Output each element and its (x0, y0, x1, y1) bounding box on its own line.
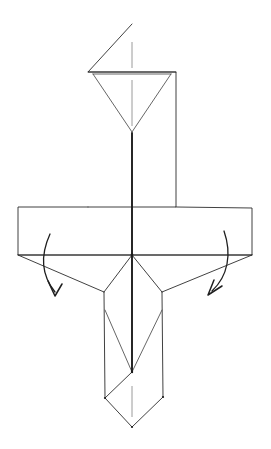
inner-inverted-triangle-left-edge (93, 74, 132, 132)
inner-lower-v-right-edge (132, 310, 162, 372)
center-to-left-flap-crease (104, 255, 132, 292)
left-fold-arrow-head-icon (48, 281, 62, 296)
right-fold-arrow (212, 231, 228, 291)
inner-inverted-triangle-right-edge (132, 74, 171, 132)
center-to-right-flap-crease (132, 255, 162, 292)
right-lower-flap-edge (162, 255, 252, 292)
inner-lower-v-left-edge (105, 310, 132, 372)
lower-body-right-side (162, 292, 163, 397)
center-vertex (131, 254, 134, 257)
inner-v-apex-lower (131, 371, 133, 373)
fold-diagram-canvas (0, 0, 271, 449)
left-wing-panel (18, 207, 132, 255)
diamond-left-vertex (104, 397, 106, 399)
diamond-bottom-vertex (131, 426, 133, 428)
lower-body-left-side (104, 292, 105, 398)
right-wing-panel (132, 207, 252, 255)
origami-fold-diagram (0, 0, 271, 449)
diamond-right-vertex (162, 396, 164, 398)
bottom-diamond-point (105, 372, 163, 427)
